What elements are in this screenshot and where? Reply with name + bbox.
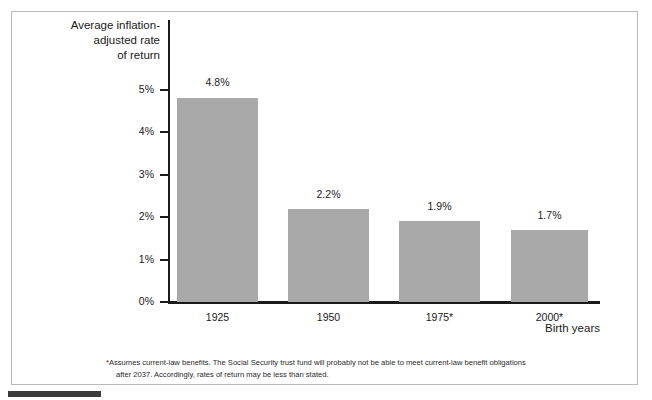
y-axis-title: Average inflation- adjusted rate of retu… xyxy=(32,18,160,63)
y-tick-mark-4 xyxy=(160,131,168,133)
bar-chart-plot: Average inflation- adjusted rate of retu… xyxy=(0,0,652,400)
footnote-line-1: *Assumes current-law benefits. The Socia… xyxy=(106,358,526,367)
footnote-line-2: after 2037. Accordingly, rates of return… xyxy=(106,369,606,381)
y-tick-label-0: 0% xyxy=(114,295,154,307)
y-axis-line xyxy=(168,20,170,303)
x-tick-label-1975: 1975* xyxy=(379,311,500,323)
y-tick-label-4: 4% xyxy=(114,125,154,137)
y-tick-mark-0 xyxy=(160,301,168,303)
bar-1975 xyxy=(399,221,480,302)
page-bottom-rule xyxy=(8,391,101,397)
bar-1950 xyxy=(288,209,369,302)
bar-value-1950: 2.2% xyxy=(268,188,389,200)
bar-value-1925: 4.8% xyxy=(157,76,278,88)
y-tick-label-1: 1% xyxy=(114,253,154,265)
x-axis-title: Birth years xyxy=(545,322,600,334)
bar-2000 xyxy=(511,230,588,302)
bar-value-2000: 1.7% xyxy=(489,209,610,221)
y-tick-label-5: 5% xyxy=(114,83,154,95)
x-tick-label-1925: 1925 xyxy=(157,311,278,323)
x-tick-label-1950: 1950 xyxy=(268,311,389,323)
y-tick-mark-1 xyxy=(160,259,168,261)
bar-value-1975: 1.9% xyxy=(379,200,500,212)
y-tick-mark-5 xyxy=(160,89,168,91)
y-tick-label-2: 2% xyxy=(114,210,154,222)
footnote: *Assumes current-law benefits. The Socia… xyxy=(106,357,606,380)
y-tick-mark-3 xyxy=(160,174,168,176)
y-tick-label-3: 3% xyxy=(114,168,154,180)
figure: Average inflation- adjusted rate of retu… xyxy=(0,0,652,400)
bar-1925 xyxy=(177,98,258,302)
y-tick-mark-2 xyxy=(160,216,168,218)
